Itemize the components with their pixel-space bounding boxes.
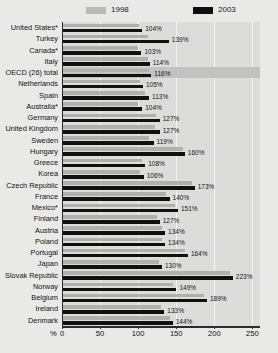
category-label-row: Australia*	[0, 101, 60, 112]
category-label-row: Denmark	[0, 315, 60, 326]
category-label-row: Japan	[0, 258, 60, 269]
bar-value-label: 134%	[168, 229, 185, 236]
category-label: Canada*	[0, 45, 60, 56]
bar-1998	[63, 238, 162, 242]
bar-row: 149%	[62, 281, 260, 292]
bar-value-label: 144%	[176, 319, 193, 326]
bar-2003	[63, 310, 164, 314]
category-label: Belgium	[0, 292, 60, 303]
bar-row: 134%	[62, 225, 260, 236]
bar-2003	[63, 74, 151, 78]
bar-value-label: 134%	[168, 240, 185, 247]
category-label-row: Greece	[0, 157, 60, 168]
category-label: Portugal	[0, 247, 60, 258]
category-label-row: Czech Republic	[0, 180, 60, 191]
bar-row: 119%	[62, 135, 260, 146]
category-label-row: Spain	[0, 90, 60, 101]
category-label: Sweden	[0, 135, 60, 146]
bar-value-label: 127%	[163, 116, 180, 123]
category-label: Norway	[0, 281, 60, 292]
bar-2003	[63, 119, 160, 123]
bar-2003	[63, 231, 165, 235]
bar-1998	[63, 226, 162, 230]
bar-row: 151%	[62, 202, 260, 213]
bar-1998	[63, 57, 148, 61]
bar-value-label: 130%	[165, 263, 182, 270]
bar-row: 134%	[62, 236, 260, 247]
category-label: Australia*	[0, 101, 60, 112]
category-label-row: France	[0, 191, 60, 202]
category-label: Italy	[0, 56, 60, 67]
category-label: Ireland	[0, 303, 60, 314]
axis-tick-label: 50	[96, 329, 104, 339]
bar-1998	[63, 260, 159, 264]
axis-tick-label: 200	[208, 329, 221, 339]
bar-1998	[63, 192, 166, 196]
category-label-row: Germany	[0, 112, 60, 123]
bar-row: 223%	[62, 270, 260, 281]
bar-row: 106%	[62, 168, 260, 179]
bar-1998	[63, 181, 192, 185]
bar-1998	[63, 170, 140, 174]
bar-1998	[63, 35, 148, 39]
legend-swatch-1998-icon	[86, 7, 106, 14]
category-label-row: Canada*	[0, 45, 60, 56]
category-label: France	[0, 191, 60, 202]
bar-1998	[63, 46, 138, 50]
bar-1998	[63, 305, 161, 309]
category-label: Netherlands	[0, 78, 60, 89]
bar-value-label: 119%	[157, 139, 173, 146]
bar-2003	[63, 243, 165, 247]
category-label-row: Sweden	[0, 135, 60, 146]
category-label: Slovak Republic	[0, 270, 60, 281]
category-label-row: Mexico*	[0, 202, 60, 213]
category-label-row: Portugal	[0, 247, 60, 258]
bar-row: 140%	[62, 191, 260, 202]
bar-value-label: 164%	[191, 251, 208, 258]
bar-value-label: 108%	[148, 161, 165, 168]
plot-area: 104%139%103%114%116%105%113%104%127%127%…	[62, 22, 260, 326]
bar-value-label: 149%	[179, 285, 196, 292]
category-label-row: Korea	[0, 168, 60, 179]
axis-tick-label: 0	[60, 329, 64, 339]
legend-swatch-2003-icon	[193, 7, 213, 14]
bar-value-label: 133%	[167, 308, 184, 315]
bar-1998	[63, 204, 175, 208]
bar-1998	[63, 147, 183, 151]
bar-chart: 1998 2003 United States*TurkeyCanada*Ita…	[0, 0, 278, 353]
category-label-row: Poland	[0, 236, 60, 247]
category-label: Finland	[0, 213, 60, 224]
bar-1998	[63, 114, 156, 118]
category-label-row: Netherlands	[0, 78, 60, 89]
category-label-row: United States*	[0, 22, 60, 33]
bar-value-label: 223%	[236, 274, 253, 281]
legend-item-1998: 1998	[86, 6, 129, 14]
bar-2003	[63, 209, 178, 213]
chart-legend: 1998 2003	[0, 0, 278, 20]
bar-2003	[63, 321, 173, 325]
bar-2003	[63, 164, 145, 168]
bar-2003	[63, 186, 195, 190]
bar-2003	[63, 62, 150, 66]
axis-tick-label: 150	[170, 329, 183, 339]
category-label-row: Slovak Republic	[0, 270, 60, 281]
bar-2003	[63, 130, 160, 134]
bar-row: 127%	[62, 213, 260, 224]
bar-2003	[63, 152, 185, 156]
value-axis-tick-labels: 050100150200250	[0, 329, 278, 343]
category-label: OECD (26) total	[0, 67, 60, 78]
bar-value-label: 127%	[163, 218, 180, 225]
bar-row: 105%	[62, 78, 260, 89]
bar-2003	[63, 40, 169, 44]
bar-value-label: 106%	[147, 173, 164, 180]
bar-2003	[63, 29, 142, 33]
category-label: Spain	[0, 90, 60, 101]
bar-row: 160%	[62, 146, 260, 157]
bar-1998	[63, 136, 149, 140]
bar-value-label: 173%	[198, 184, 215, 191]
category-label: United Kingdom	[0, 123, 60, 134]
bar-row: 104%	[62, 101, 260, 112]
bar-value-label: 139%	[172, 37, 189, 44]
bar-row: 114%	[62, 56, 260, 67]
category-label: Hungary	[0, 146, 60, 157]
